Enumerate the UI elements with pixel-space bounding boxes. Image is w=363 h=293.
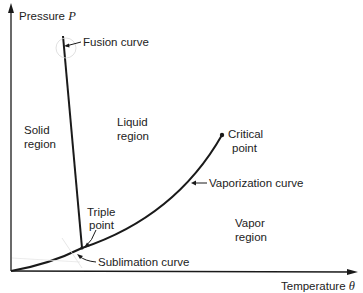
vapor-region-label-line2: region — [235, 231, 267, 243]
solid-region-label-line2: region — [24, 138, 56, 150]
critical-point-label-line2: point — [232, 142, 258, 154]
critical-point-marker — [220, 133, 224, 137]
axes — [8, 3, 358, 275]
x-axis — [11, 271, 350, 272]
critical-point-label-line1: Critical — [228, 128, 263, 140]
triple-point-label-line1: Triple — [87, 206, 115, 218]
vaporization-leader-arrow-icon — [191, 181, 196, 186]
y-axis-arrow-icon — [8, 3, 14, 13]
triple-point-marker — [80, 246, 83, 249]
vapor-region-label-line1: Vapor — [235, 217, 265, 229]
pencil-mark — [62, 238, 82, 268]
x-axis-arrow-icon — [347, 269, 358, 275]
x-axis-label: Temperature θ — [281, 279, 355, 293]
vaporization-curve — [82, 135, 222, 248]
liquid-region-label-line2: region — [117, 130, 149, 142]
y-axis-label: Pressure P — [19, 9, 76, 23]
liquid-region-label-line1: Liquid — [117, 116, 148, 128]
vaporization-curve-label: Vaporization curve — [209, 177, 303, 189]
pencil-circle-mark — [56, 38, 76, 58]
sublimation-curve-label: Sublimation curve — [98, 256, 189, 268]
triple-point-label-line2: point — [89, 219, 115, 231]
pencil-mark — [12, 258, 80, 262]
solid-region-label-line1: Solid — [24, 124, 50, 136]
fusion-curve — [63, 36, 82, 248]
fusion-curve-label: Fusion curve — [83, 36, 149, 48]
phase-diagram: Pressure P Temperature θ Fusion curve Va… — [0, 0, 363, 293]
